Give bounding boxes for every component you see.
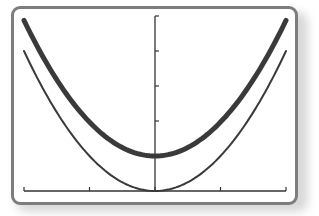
axes — [24, 16, 286, 191]
graph-plot — [0, 0, 319, 216]
